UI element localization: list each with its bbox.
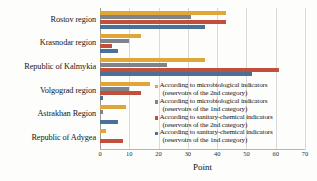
chart-legend: According to microbiological indicators(… [155, 82, 315, 145]
bar-row [100, 63, 305, 67]
y-axis-category-labels: Rostov regionKrasnodar regionRepublic of… [0, 8, 99, 150]
bar[interactable] [100, 87, 129, 91]
x-axis-tick-label: 60 [273, 151, 279, 157]
bar[interactable] [100, 72, 252, 76]
bar[interactable] [100, 91, 141, 95]
bar[interactable] [100, 105, 126, 109]
y-axis-category-label: Volgograd region [0, 79, 99, 103]
bar-row [100, 20, 305, 24]
bar[interactable] [100, 129, 106, 133]
x-axis-tick-label: 0 [98, 151, 101, 157]
bar[interactable] [100, 139, 123, 143]
legend-label: According to sanitary-chemical indicator… [160, 114, 273, 130]
bar[interactable] [100, 96, 103, 100]
legend-swatch-icon [155, 132, 158, 135]
bar-row [100, 39, 305, 43]
bar-group [100, 8, 305, 32]
x-axis-title: Point [100, 163, 305, 172]
bar-row [100, 49, 305, 53]
bar[interactable] [100, 25, 205, 29]
bar[interactable] [100, 11, 226, 15]
bar-group [100, 32, 305, 56]
x-axis-tick-labels: 010203040506070 [100, 151, 305, 161]
legend-item[interactable]: According to microbiological indicators(… [155, 98, 315, 114]
bar-row [100, 34, 305, 38]
bar[interactable] [100, 15, 191, 19]
x-axis-tick-label: 20 [155, 151, 161, 157]
bar-row [100, 58, 305, 62]
bar[interactable] [100, 110, 103, 114]
legend-item[interactable]: According to sanitary-chemical indicator… [155, 114, 315, 130]
bar[interactable] [100, 58, 205, 62]
x-axis-tick-label: 50 [243, 151, 249, 157]
bar[interactable] [100, 63, 167, 67]
legend-item[interactable]: According to microbiological indicators(… [155, 82, 315, 98]
legend-swatch-icon [155, 116, 158, 119]
legend-swatch-icon [155, 85, 158, 88]
legend-label: According to microbiological indicators(… [160, 98, 268, 114]
bar-group [100, 55, 305, 79]
bar[interactable] [100, 20, 226, 24]
x-axis-tick-label: 70 [302, 151, 308, 157]
bar[interactable] [100, 120, 118, 124]
bar[interactable] [100, 49, 118, 53]
legend-label: According to microbiological indicators(… [160, 82, 268, 98]
bar[interactable] [100, 68, 279, 72]
x-axis-tick-label: 40 [214, 151, 220, 157]
bar-row [100, 15, 305, 19]
y-axis-category-label: Rostov region [0, 8, 99, 32]
bar[interactable] [100, 39, 129, 43]
bar-row [100, 11, 305, 15]
legend-label: According to sanitary-chemical indicator… [160, 129, 273, 145]
bar-row [100, 25, 305, 29]
y-axis-category-label: Republic of Kalmykia [0, 55, 99, 79]
bar[interactable] [100, 34, 141, 38]
bar-row [100, 44, 305, 48]
bar-row [100, 68, 305, 72]
y-axis-category-label: Republic of Adygea [0, 126, 99, 150]
y-axis-category-label: Astrakhan Region [0, 103, 99, 127]
x-axis-tick-label: 30 [185, 151, 191, 157]
y-axis-category-label: Krasnodar region [0, 32, 99, 56]
legend-swatch-icon [155, 100, 158, 103]
x-axis-tick-label: 10 [126, 151, 132, 157]
bar-row [100, 72, 305, 76]
bar-chart: Rostov regionKrasnodar regionRepublic of… [0, 0, 317, 181]
legend-item[interactable]: According to sanitary-chemical indicator… [155, 129, 315, 145]
bar[interactable] [100, 44, 112, 48]
bar[interactable] [100, 82, 150, 86]
